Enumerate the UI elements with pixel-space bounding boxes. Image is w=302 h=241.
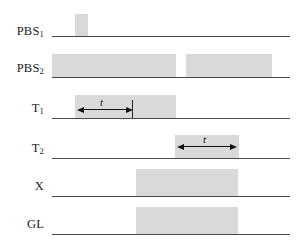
baseline-t1 [52, 118, 290, 119]
baseline-x [52, 196, 290, 197]
row-label-t1-sub: 1 [40, 106, 44, 116]
duration-arrowhead-right-t2 [230, 144, 237, 150]
duration-arrow-line-t2 [181, 146, 233, 147]
row-label-t1: T1 [0, 101, 44, 116]
pulse-pbs2-1 [52, 54, 176, 77]
row-label-pbs2-main: PBS [17, 61, 40, 75]
baseline-pbs2 [52, 77, 290, 78]
row-label-gl-main: GL [27, 217, 44, 231]
row-label-pbs2-sub: 2 [40, 66, 44, 76]
row-label-t1-main: T [32, 101, 40, 115]
row-label-t2: T2 [0, 141, 44, 156]
duration-arrowhead-left-t1 [77, 107, 84, 113]
row-label-x: X [0, 179, 44, 194]
row-label-pbs1-main: PBS [17, 24, 40, 38]
baseline-gl [52, 234, 290, 235]
row-label-t2-main: T [32, 141, 40, 155]
duration-arrow-line-t1 [81, 109, 129, 110]
pulse-pbs1-1 [75, 14, 88, 36]
duration-arrowhead-right-t1 [126, 107, 133, 113]
row-label-t2-sub: 2 [40, 146, 44, 156]
baseline-pbs1 [52, 36, 290, 37]
row-label-x-main: X [35, 179, 44, 193]
pulse-x-1 [136, 169, 238, 196]
pulse-pbs2-2 [186, 54, 272, 77]
duration-arrowhead-left-t2 [177, 144, 184, 150]
timing-diagram: PBS1 PBS2 T1 t T2 t [0, 0, 302, 241]
pulse-gl-1 [136, 207, 238, 234]
row-label-gl: GL [0, 217, 44, 232]
row-label-pbs2: PBS2 [0, 61, 44, 76]
duration-label-t1: t [100, 96, 103, 108]
duration-label-t2: t [203, 133, 206, 145]
baseline-t2 [52, 158, 290, 159]
row-label-pbs1: PBS1 [0, 24, 44, 39]
row-label-pbs1-sub: 1 [40, 29, 44, 39]
